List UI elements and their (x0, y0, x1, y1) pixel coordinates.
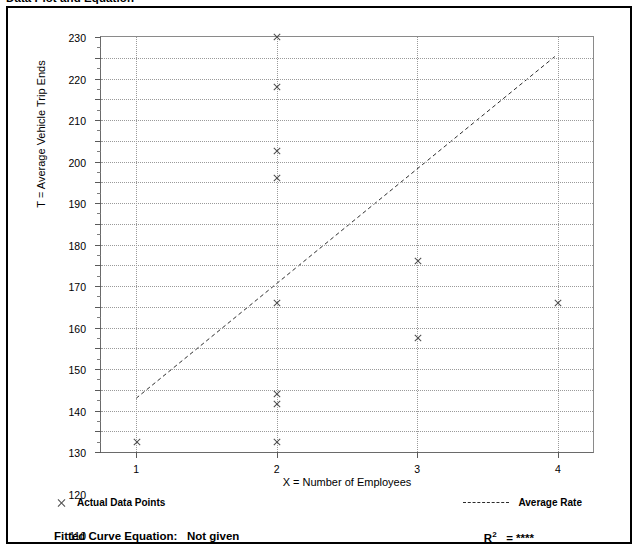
r-squared-value: R2 = **** (484, 530, 534, 544)
y-axis-tick: 40 (95, 431, 101, 432)
cross-marker-icon (56, 498, 66, 508)
x-axis-tick-label: 2 (274, 463, 280, 475)
gridline-horizontal (101, 79, 593, 80)
gridline-horizontal (101, 182, 593, 183)
gridline-horizontal (101, 224, 593, 225)
x-axis-title: X = Number of Employees (100, 476, 594, 488)
y-axis-minor-tick (97, 172, 101, 173)
y-axis-minor-tick (97, 379, 101, 380)
y-axis-tick: 60 (95, 390, 101, 391)
y-axis-minor-tick (97, 276, 101, 277)
y-axis-minor-tick (97, 151, 101, 152)
r-squared-reading: = **** (506, 532, 534, 544)
x-axis-tick-label: 4 (555, 463, 561, 475)
fitted-curve-label: Fitted Curve Equation: (54, 530, 177, 542)
y-axis-minor-tick (97, 68, 101, 69)
y-axis-minor-tick (97, 338, 101, 339)
plot-area: 3040506070809010011012013014015016017018… (100, 36, 594, 453)
fitted-curve-value: Not given (187, 530, 239, 542)
y-axis-minor-tick (97, 359, 101, 360)
y-axis-tick: 150 (95, 203, 101, 204)
chart-legend: Actual Data Points Average Rate (8, 497, 630, 515)
x-axis-tick (558, 452, 559, 458)
y-axis-minor-tick (97, 442, 101, 443)
x-axis-tick (277, 452, 278, 458)
gridline-horizontal (101, 99, 593, 100)
x-axis-tick-label: 1 (133, 463, 139, 475)
gridline-vertical (277, 37, 278, 452)
gridline-horizontal (101, 245, 593, 246)
y-axis-minor-tick (97, 421, 101, 422)
gridline-horizontal (101, 265, 593, 266)
y-axis-tick-label: 130 (68, 447, 86, 459)
chart-footer: Fitted Curve Equation: Not given R2 = **… (8, 530, 630, 549)
y-axis-tick: 180 (95, 141, 101, 142)
gridline-horizontal (101, 411, 593, 412)
gridline-horizontal (101, 286, 593, 287)
y-axis-tick-label: 190 (68, 198, 86, 210)
y-axis-minor-tick (97, 110, 101, 111)
y-axis-tick: 110 (95, 286, 101, 287)
y-axis-tick-label: 210 (68, 115, 86, 127)
gridline-horizontal (101, 431, 593, 432)
fitted-curve-equation: Fitted Curve Equation: Not given (54, 530, 239, 542)
gridline-horizontal (101, 162, 593, 163)
gridline-horizontal (101, 307, 593, 308)
y-axis-minor-tick (97, 213, 101, 214)
chart-figure-frame: 3040506070809010011012013014015016017018… (6, 6, 632, 544)
y-axis-minor-tick (97, 130, 101, 131)
y-axis-tick: 200 (95, 99, 101, 100)
y-axis-tick-label: 170 (68, 281, 86, 293)
y-axis-tick: 30 (95, 452, 101, 453)
y-axis-tick-label: 230 (68, 32, 86, 44)
y-axis-tick: 210 (95, 79, 101, 80)
r-squared-label: R (484, 532, 492, 544)
gridline-horizontal (101, 141, 593, 142)
dashed-line-icon (463, 502, 509, 503)
gridline-horizontal (101, 369, 593, 370)
y-axis-minor-tick (97, 400, 101, 401)
y-axis-minor-tick (97, 47, 101, 48)
x-axis-tick (136, 452, 137, 458)
y-axis-tick: 160 (95, 182, 101, 183)
gridline-vertical (136, 37, 137, 452)
y-axis-tick-label: 150 (68, 364, 86, 376)
y-axis-tick: 120 (95, 265, 101, 266)
y-axis-tick: 130 (95, 245, 101, 246)
y-axis-tick: 80 (95, 348, 101, 349)
y-axis-minor-tick (97, 234, 101, 235)
y-axis-tick-label: 180 (68, 240, 86, 252)
legend-item-actual-data-points: Actual Data Points (56, 497, 165, 508)
gridline-vertical (417, 37, 418, 452)
y-axis-minor-tick (97, 193, 101, 194)
y-axis-tick-label: 160 (68, 323, 86, 335)
legend-item-average-rate: Average Rate (463, 497, 582, 508)
page-title: Data Plot and Equation (6, 0, 134, 4)
legend-label-average-rate: Average Rate (518, 497, 582, 508)
gridline-vertical (558, 37, 559, 452)
gridline-horizontal (101, 203, 593, 204)
y-axis-minor-tick (97, 89, 101, 90)
y-axis-minor-tick (97, 317, 101, 318)
y-axis-tick: 190 (95, 120, 101, 121)
y-axis-minor-tick (97, 255, 101, 256)
y-axis-tick: 230 (95, 37, 101, 38)
y-axis-tick: 100 (95, 307, 101, 308)
y-axis-tick-label: 220 (68, 74, 86, 86)
y-axis-tick: 170 (95, 162, 101, 163)
legend-label-actual-data-points: Actual Data Points (77, 497, 165, 508)
gridline-horizontal (101, 390, 593, 391)
y-axis-tick: 140 (95, 224, 101, 225)
y-axis-tick: 70 (95, 369, 101, 370)
gridline-horizontal (101, 120, 593, 121)
gridline-horizontal (101, 348, 593, 349)
r-squared-exponent: 2 (492, 530, 496, 539)
x-axis-tick (417, 452, 418, 458)
gridline-horizontal (101, 58, 593, 59)
y-axis-tick: 220 (95, 58, 101, 59)
y-axis-tick-label: 200 (68, 157, 86, 169)
gridline-horizontal (101, 328, 593, 329)
y-axis-tick: 50 (95, 411, 101, 412)
y-axis-title: T = Average Vehicle Trip Ends (35, 9, 47, 259)
y-axis-tick: 90 (95, 328, 101, 329)
